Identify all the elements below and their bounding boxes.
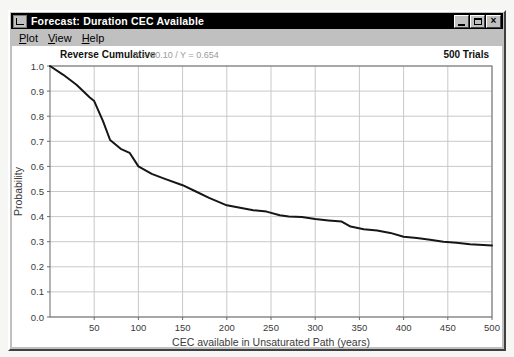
y-tick-label: 0.2 bbox=[31, 261, 44, 272]
x-tick-label: 150 bbox=[175, 322, 191, 333]
chart-panel: Reverse Cumulative X = 90.10 / Y = 0.654… bbox=[12, 46, 502, 347]
forecast-window: Forecast: Duration CEC Available × PlotV… bbox=[8, 10, 506, 351]
y-axis-title: Probability bbox=[12, 166, 24, 216]
y-tick-label: 0.1 bbox=[31, 286, 44, 297]
close-button[interactable]: × bbox=[486, 15, 501, 28]
title-bar[interactable]: Forecast: Duration CEC Available × bbox=[11, 13, 503, 29]
y-tick-label: 0.3 bbox=[31, 236, 44, 247]
menu-item-view[interactable]: View bbox=[43, 32, 77, 44]
forecast-chart-icon bbox=[13, 15, 27, 28]
maximize-button[interactable] bbox=[470, 15, 485, 28]
forecast-chart[interactable]: 501001502002503003504004505001.00.90.80.… bbox=[12, 62, 506, 350]
y-tick-label: 0.9 bbox=[31, 86, 44, 97]
menu-item-help[interactable]: Help bbox=[77, 32, 110, 44]
minimize-icon bbox=[458, 24, 465, 26]
y-tick-label: 0.4 bbox=[31, 211, 44, 222]
y-tick-label: 0.5 bbox=[31, 186, 44, 197]
crosshair-readout: X = 90.10 / Y = 0.654 bbox=[134, 50, 219, 60]
y-tick-label: 0.8 bbox=[31, 111, 44, 122]
x-tick-label: 450 bbox=[440, 322, 456, 333]
x-tick-label: 200 bbox=[219, 322, 235, 333]
y-tick-label: 0.6 bbox=[31, 161, 44, 172]
maximize-icon bbox=[474, 18, 482, 25]
chart-header: Reverse Cumulative X = 90.10 / Y = 0.654… bbox=[12, 46, 502, 62]
x-tick-label: 100 bbox=[130, 322, 146, 333]
y-tick-label: 0.0 bbox=[31, 312, 44, 323]
menu-bar: PlotViewHelp bbox=[10, 30, 504, 45]
x-tick-label: 400 bbox=[396, 322, 412, 333]
window-title: Forecast: Duration CEC Available bbox=[31, 15, 453, 27]
trials-count: 500 Trials bbox=[443, 49, 489, 60]
x-tick-label: 50 bbox=[89, 322, 100, 333]
y-tick-label: 0.7 bbox=[31, 136, 44, 147]
x-tick-label: 500 bbox=[484, 322, 500, 333]
x-tick-label: 250 bbox=[263, 322, 279, 333]
menu-item-plot[interactable]: Plot bbox=[14, 32, 43, 44]
x-tick-label: 300 bbox=[307, 322, 323, 333]
x-tick-label: 350 bbox=[351, 322, 367, 333]
close-icon: × bbox=[491, 16, 497, 26]
y-tick-label: 1.0 bbox=[31, 62, 44, 72]
x-axis-title: CEC available in Unsaturated Path (years… bbox=[172, 336, 370, 348]
minimize-button[interactable] bbox=[454, 15, 469, 28]
